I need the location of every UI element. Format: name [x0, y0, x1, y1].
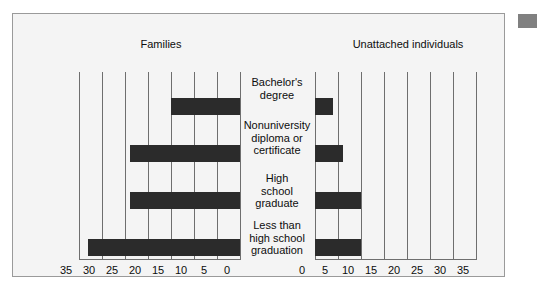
- category-label-2-line-1: school: [240, 185, 314, 198]
- bar-unattached-1: [315, 145, 343, 162]
- category-label-3-line-2: graduation: [240, 244, 314, 257]
- bar-unattached-2: [315, 192, 361, 209]
- bar-families-3: [88, 239, 240, 256]
- chart-panel: Families Unattached individuals 35302520…: [12, 13, 505, 277]
- category-label-2-line-2: graduate: [240, 197, 314, 210]
- category-label-3-line-0: Less than: [240, 219, 314, 232]
- gridline-unattached-25: [430, 72, 431, 260]
- axis-baseline-right: [315, 259, 476, 260]
- plot-area-families: [79, 72, 240, 260]
- axis-baseline-left: [79, 259, 240, 260]
- category-label-0-line-1: degree: [240, 89, 314, 102]
- category-label-2: Highschoolgraduate: [240, 172, 314, 210]
- category-label-1-line-0: Nonuniversity: [240, 119, 314, 132]
- bar-families-2: [130, 192, 240, 209]
- bar-unattached-0: [315, 98, 333, 115]
- gridline-families-30: [102, 72, 103, 260]
- category-label-3-line-1: high school: [240, 232, 314, 245]
- chart-page: Families Unattached individuals 35302520…: [0, 0, 537, 293]
- gridline-unattached-10: [361, 72, 362, 260]
- gridline-unattached-5: [338, 72, 339, 260]
- bar-families-0: [171, 98, 240, 115]
- category-label-0-line-0: Bachelor's: [240, 76, 314, 89]
- plot-area-unattached-individuals: [315, 72, 476, 260]
- panel-header-families: Families: [73, 38, 249, 50]
- category-label-1-line-1: diploma or: [240, 132, 314, 145]
- bar-families-1: [130, 145, 240, 162]
- bar-unattached-3: [315, 239, 361, 256]
- category-label-2-line-0: High: [240, 172, 314, 185]
- category-label-0: Bachelor'sdegree: [240, 76, 314, 101]
- corner-artifact-block: [518, 14, 537, 28]
- gridline-unattached-20: [407, 72, 408, 260]
- gridline-unattached-30: [453, 72, 454, 260]
- category-label-1: Nonuniversitydiploma orcertificate: [240, 119, 314, 157]
- category-label-1-line-2: certificate: [240, 144, 314, 157]
- panel-header-unattached-individuals: Unattached individuals: [313, 38, 503, 50]
- gridline-families-35: [79, 72, 80, 260]
- axis-tick-label-families-0: 0: [214, 264, 240, 276]
- gridline-unattached-15: [384, 72, 385, 260]
- gridline-families-20: [148, 72, 149, 260]
- gridline-unattached-35: [476, 72, 477, 260]
- gridline-families-25: [125, 72, 126, 260]
- axis-tick-label-unattached-35: 35: [450, 264, 476, 276]
- category-label-3: Less thanhigh schoolgraduation: [240, 219, 314, 257]
